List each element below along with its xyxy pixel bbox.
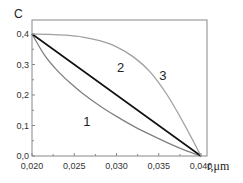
series-group xyxy=(32,34,201,156)
x-axis-title: r,μm xyxy=(207,159,230,173)
y-tick-label: 0,0 xyxy=(16,151,29,161)
y-tick-label: 0,2 xyxy=(16,90,29,100)
curve-label-3: 3 xyxy=(159,68,166,83)
curve-labels: 123 xyxy=(83,60,166,128)
y-axis-title: C xyxy=(14,7,23,21)
y-tick-label: 0,1 xyxy=(16,121,29,131)
x-tick-label: 0,030 xyxy=(105,161,128,171)
x-tick-label: 0,020 xyxy=(21,161,44,171)
curve-label-2: 2 xyxy=(117,60,124,75)
x-tick-label: 0,035 xyxy=(147,161,170,171)
y-axis-ticks: 0,00,10,20,30,4 xyxy=(16,29,35,161)
chart: 0,0200,0250,0300,0350,040 0,00,10,20,30,… xyxy=(0,0,243,183)
y-tick-label: 0,3 xyxy=(16,60,29,70)
series-line-2 xyxy=(32,34,201,156)
curve-label-1: 1 xyxy=(83,114,90,129)
x-tick-label: 0,025 xyxy=(63,161,86,171)
plot-frame xyxy=(32,20,207,156)
y-tick-label: 0,4 xyxy=(16,29,29,39)
